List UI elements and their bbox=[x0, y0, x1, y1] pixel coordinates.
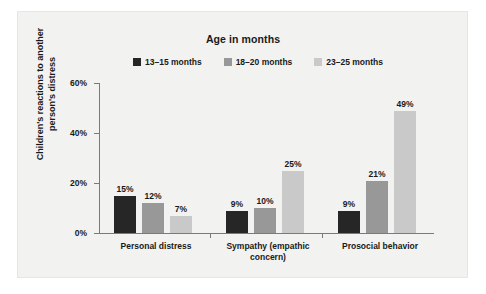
bar: 49% bbox=[394, 111, 416, 234]
bar-value-label: 21% bbox=[368, 169, 385, 179]
y-axis-title-line-2: person's distress bbox=[47, 15, 59, 173]
y-axis-title: Children's reactions to another person's… bbox=[35, 15, 65, 173]
bar: 15% bbox=[114, 196, 136, 234]
bar-value-label: 9% bbox=[343, 199, 355, 209]
y-tick: 20% bbox=[94, 183, 99, 184]
legend-swatch-icon bbox=[133, 58, 141, 66]
chart-title: Age in months bbox=[0, 33, 486, 45]
bar: 9% bbox=[338, 211, 360, 234]
legend-item-23-25-months: 23–25 months bbox=[314, 57, 383, 67]
x-tick bbox=[210, 234, 211, 238]
x-tick bbox=[322, 234, 323, 238]
legend-item-13-15-months: 13–15 months bbox=[133, 57, 202, 67]
legend-item-18-20-months: 18–20 months bbox=[224, 57, 293, 67]
legend-label: 18–20 months bbox=[236, 57, 293, 67]
legend-swatch-icon bbox=[314, 58, 322, 66]
y-tick-label: 0% bbox=[75, 228, 87, 238]
x-category-label: Sympathy (empathic concern) bbox=[208, 241, 328, 263]
bar: 12% bbox=[142, 203, 164, 233]
bar: 10% bbox=[254, 208, 276, 233]
y-tick-label: 60% bbox=[70, 78, 87, 88]
plot-area: 0% 20% 40% 60% 15% 12% 7% 9% 10% bbox=[99, 83, 434, 234]
y-tick-label: 20% bbox=[70, 178, 87, 188]
y-tick: 0% bbox=[94, 233, 99, 234]
bar-value-label: 25% bbox=[284, 159, 301, 169]
bar-value-label: 9% bbox=[231, 199, 243, 209]
bar: 25% bbox=[282, 171, 304, 234]
legend-label: 13–15 months bbox=[145, 57, 202, 67]
y-tick: 60% bbox=[94, 83, 99, 84]
x-category-label-line: concern) bbox=[208, 252, 328, 263]
chart-legend: 13–15 months 18–20 months 23–25 months bbox=[133, 55, 383, 69]
bar: 21% bbox=[366, 181, 388, 234]
x-axis-line bbox=[99, 233, 434, 234]
bar: 7% bbox=[170, 216, 192, 234]
y-tick: 40% bbox=[94, 133, 99, 134]
x-category-label: Prosocial behavior bbox=[320, 241, 440, 252]
y-tick-label: 40% bbox=[70, 128, 87, 138]
y-axis-line bbox=[99, 83, 100, 234]
x-category-label-line: Sympathy (empathic bbox=[208, 241, 328, 252]
y-axis-title-line-1: Children's reactions to another bbox=[35, 15, 47, 173]
bar-value-label: 12% bbox=[144, 191, 161, 201]
bar-value-label: 7% bbox=[175, 204, 187, 214]
x-category-label: Personal distress bbox=[96, 241, 216, 252]
bar-value-label: 15% bbox=[116, 184, 133, 194]
x-category-label-line: Personal distress bbox=[96, 241, 216, 252]
bar-value-label: 10% bbox=[256, 196, 273, 206]
bar: 9% bbox=[226, 211, 248, 234]
legend-label: 23–25 months bbox=[326, 57, 383, 67]
legend-swatch-icon bbox=[224, 58, 232, 66]
chart-figure: Age in months 13–15 months 18–20 months … bbox=[0, 0, 486, 294]
bar-value-label: 49% bbox=[396, 99, 413, 109]
x-category-label-line: Prosocial behavior bbox=[320, 241, 440, 252]
